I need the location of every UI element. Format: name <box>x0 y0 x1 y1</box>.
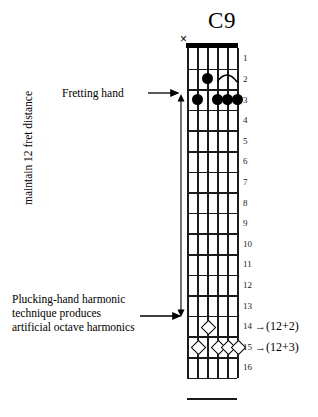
fretted-note-dot <box>192 94 203 105</box>
harmonic-note-diamond <box>190 340 206 356</box>
fret-number-label: 3 <box>243 96 259 105</box>
fret-number-label: 6 <box>243 157 259 166</box>
fret-line <box>187 357 237 359</box>
fret-line <box>187 89 237 91</box>
fret-number-label: 9 <box>243 219 259 228</box>
plucking-hand-callout: Plucking-hand harmonic technique produce… <box>12 292 164 334</box>
chord-diagram-figure: C9 × maintain 12 fret distance Fretting … <box>0 0 318 417</box>
octave-annotation-text: (12+2) <box>266 319 299 333</box>
annotation-arrows-overlay <box>0 0 318 417</box>
fret-number-label: 1 <box>243 54 259 63</box>
octave-annotation: →(12+3) <box>255 341 299 353</box>
fret-line <box>187 295 237 297</box>
octave-annotation: →(12+2) <box>255 320 299 332</box>
fret-line <box>187 316 237 318</box>
fretboard-grid <box>187 48 237 378</box>
fret-number-label: 10 <box>243 240 259 249</box>
fretted-note-dot <box>212 94 223 105</box>
fretted-note-dot <box>222 94 233 105</box>
fret-number-label: 13 <box>243 302 259 311</box>
page-title: C9 <box>192 8 252 34</box>
fret-line <box>187 336 237 338</box>
fret-line <box>187 130 237 132</box>
octave-annotation-text: (12+3) <box>266 340 299 354</box>
fret-line <box>187 233 237 235</box>
fret-line <box>187 213 237 215</box>
fret-number-label: 12 <box>243 281 259 290</box>
fret-line <box>187 110 237 112</box>
fret-line <box>187 398 237 400</box>
plucking-line-3: artificial octave harmonics <box>12 320 164 334</box>
fret-number-label: 11 <box>243 260 259 269</box>
fret-number-label: 16 <box>243 363 259 372</box>
fretting-hand-callout: Fretting hand <box>62 87 124 100</box>
fret-number-label: 4 <box>243 116 259 125</box>
fret-line <box>187 275 237 277</box>
arrow-right-icon: → <box>255 320 266 332</box>
fret-line <box>187 151 237 153</box>
fretted-note-dot <box>232 94 243 105</box>
plucking-line-1: Plucking-hand harmonic <box>12 292 164 306</box>
fret-line <box>187 254 237 256</box>
harmonic-note-diamond <box>200 319 216 335</box>
nut-bar <box>186 43 238 48</box>
fret-number-label: 2 <box>243 75 259 84</box>
measurement-label: maintain 12 fret distance <box>22 68 34 228</box>
plucking-line-2: technique produces <box>12 306 164 320</box>
slur-arc <box>217 71 243 83</box>
fret-line <box>187 172 237 174</box>
fret-number-label: 7 <box>243 178 259 187</box>
fret-number-label: 5 <box>243 137 259 146</box>
fret-number-label: 8 <box>243 199 259 208</box>
fret-line <box>187 192 237 194</box>
arrow-right-icon: → <box>255 341 266 353</box>
fretted-note-dot <box>202 73 213 84</box>
fret-line <box>187 378 237 380</box>
